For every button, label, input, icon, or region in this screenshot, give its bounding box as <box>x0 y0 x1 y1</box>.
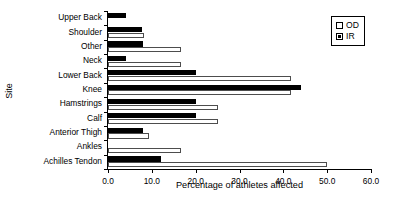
bar-od <box>108 133 149 138</box>
bar-ir <box>108 85 301 90</box>
y-axis-tick <box>104 97 108 98</box>
bar-chart: Site Upper BackShoulderOtherNeckLower Ba… <box>0 0 403 224</box>
x-axis-tick <box>283 169 284 173</box>
bar-ir <box>108 13 126 18</box>
x-axis-tick <box>108 169 109 173</box>
legend-swatch-od-icon <box>336 22 343 29</box>
legend-item: OD <box>336 20 359 31</box>
legend-label: OD <box>346 21 359 30</box>
y-axis-tick <box>104 83 108 84</box>
bar-od <box>108 62 181 67</box>
y-axis-tick-label: Hamstrings <box>10 99 102 108</box>
y-axis-tick <box>104 126 108 127</box>
y-axis-category-labels: Upper BackShoulderOtherNeckLower BackKne… <box>10 11 102 169</box>
y-axis-tick-label: Shoulder <box>10 28 102 37</box>
bar-ir <box>108 156 161 161</box>
bar-ir <box>108 70 196 75</box>
y-axis-tick <box>104 155 108 156</box>
legend-label: IR <box>346 32 355 41</box>
bar-od <box>108 47 181 52</box>
x-axis-tick <box>152 169 153 173</box>
bar-od <box>108 105 218 110</box>
bar-od <box>108 76 291 81</box>
bar-ir <box>108 113 196 118</box>
bar-od <box>108 162 327 167</box>
bar-od <box>108 119 218 124</box>
x-axis-tick <box>196 169 197 173</box>
legend-item: IR <box>336 31 359 42</box>
y-axis-tick <box>104 11 108 12</box>
bar-ir <box>108 56 126 61</box>
x-axis-tick <box>371 169 372 173</box>
x-axis-tick <box>327 169 328 173</box>
y-axis-tick <box>104 112 108 113</box>
bar-od <box>108 148 181 153</box>
y-axis-tick-label: Knee <box>10 85 102 94</box>
bar-od <box>108 90 291 95</box>
x-axis-tick <box>240 169 241 173</box>
bar-od <box>108 33 144 38</box>
legend-swatch-ir-icon <box>336 33 343 40</box>
bar-ir <box>108 128 143 133</box>
y-axis-tick-label: Upper Back <box>10 13 102 22</box>
x-axis-title: Percentage of athletes affected <box>107 180 372 190</box>
y-axis-tick <box>104 40 108 41</box>
y-axis-tick <box>104 25 108 26</box>
legend: ODIR <box>331 16 365 46</box>
bar-ir <box>108 27 142 32</box>
y-axis-tick <box>104 169 108 170</box>
y-axis-tick <box>104 54 108 55</box>
bar-ir <box>108 99 196 104</box>
y-axis-tick-label: Lower Back <box>10 71 102 80</box>
y-axis-tick-label: Other <box>10 42 102 51</box>
bar-ir <box>108 41 143 46</box>
y-axis-tick-label: Calf <box>10 114 102 123</box>
y-axis-tick <box>104 68 108 69</box>
y-axis-tick-label: Neck <box>10 56 102 65</box>
y-axis-tick-label: Ankles <box>10 142 102 151</box>
y-axis-tick-label: Achilles Tendon <box>10 157 102 166</box>
y-axis-tick-label: Anterior Thigh <box>10 128 102 137</box>
y-axis-tick <box>104 140 108 141</box>
